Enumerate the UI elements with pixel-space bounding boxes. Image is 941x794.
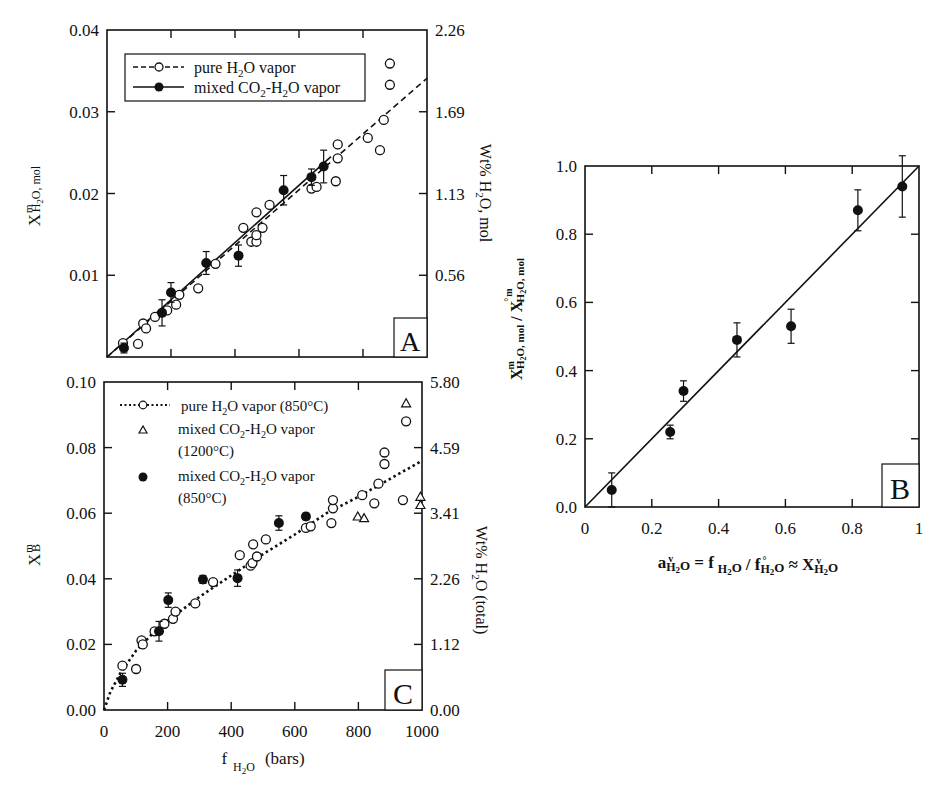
panel-b-ylabel: XmH2O, mol/ X°mH2O, mol <box>503 258 528 380</box>
x-tick-label: 400 <box>218 722 244 741</box>
open-circle-marker-icon <box>385 59 394 68</box>
panel-a: 0.010.560.021.130.031.690.042.26 pure H2… <box>22 21 494 357</box>
filled-circle-marker-icon <box>665 427 675 437</box>
open-circle-marker-icon <box>249 540 258 549</box>
open-circle-marker-icon <box>132 665 141 674</box>
y-tick-label: 0.02 <box>66 635 96 654</box>
filled-circle-marker-icon <box>155 83 164 92</box>
y-right-tick-label: 0.00 <box>430 701 460 720</box>
open-circle-marker-icon <box>333 154 342 163</box>
open-circle-marker-icon <box>138 640 147 649</box>
panel-a-points <box>119 59 395 353</box>
panel-c: 020040060080010000.000.000.021.120.042.2… <box>22 373 490 776</box>
legend-c-mixed-850-temp: (850°C) <box>178 490 227 507</box>
filled-circle-marker-icon <box>306 172 316 182</box>
filled-circle-marker-icon <box>198 574 208 584</box>
panel-a-label: A <box>400 326 421 357</box>
x-tick-label: 0.6 <box>775 519 796 538</box>
open-circle-marker-icon <box>239 223 248 232</box>
filled-circle-marker-icon <box>301 511 311 521</box>
open-circle-marker-icon <box>142 324 151 333</box>
y-tick-label: 0.6 <box>556 293 577 312</box>
open-circle-marker-icon <box>175 290 184 299</box>
y-right-tick-label: 5.80 <box>430 373 460 392</box>
y-right-tick-label: 1.69 <box>435 103 465 122</box>
x-tick-label: 1 <box>915 519 924 538</box>
open-circle-marker-icon <box>380 460 389 469</box>
open-circle-marker-icon <box>235 551 244 560</box>
filled-circle-marker-icon <box>233 573 243 583</box>
y-tick-label: 0.08 <box>66 439 96 458</box>
panel-c-points <box>117 399 424 687</box>
panel-b-fit-lines <box>585 166 919 507</box>
open-circle-marker-icon <box>379 115 388 124</box>
y-right-tick-label: 2.26 <box>430 570 460 589</box>
legend-c-mixed-1200: mixed CO2-H2O vapor <box>178 421 315 440</box>
y-right-tick-label: 2.26 <box>435 21 465 40</box>
figure: 0.010.560.021.130.031.690.042.26 pure H2… <box>0 0 941 794</box>
y-tick-label: 0.04 <box>66 570 96 589</box>
filled-circle-marker-icon <box>279 185 289 195</box>
open-circle-marker-icon <box>261 535 270 544</box>
open-circle-marker-icon <box>358 491 367 500</box>
y-tick-label: 0.10 <box>66 373 96 392</box>
open-circle-marker-icon <box>252 208 261 217</box>
y-right-tick-label: 4.59 <box>430 439 460 458</box>
open-circle-marker-icon <box>328 496 337 505</box>
open-circle-marker-icon <box>331 177 340 186</box>
open-circle-marker-icon <box>172 300 181 309</box>
filled-circle-marker-icon <box>163 595 173 605</box>
filled-circle-marker-icon <box>853 205 863 215</box>
filled-circle-marker-icon <box>117 675 127 685</box>
open-circle-marker-icon <box>211 259 220 268</box>
filled-circle-marker-icon <box>157 308 167 318</box>
open-circle-marker-icon <box>374 479 383 488</box>
filled-circle-marker-icon <box>154 626 164 636</box>
y-right-tick-label: 1.13 <box>435 185 465 204</box>
panel-a-right-ylabel: Wt% H2O, mol <box>474 144 494 243</box>
x-tick-label: 0.8 <box>842 519 863 538</box>
y-tick-label: 1.0 <box>556 157 577 176</box>
panel-c-ylabel: XmB <box>22 544 44 566</box>
open-circle-marker-icon <box>398 496 407 505</box>
panel-c-fit-lines <box>104 461 422 710</box>
y-tick-label: 0.02 <box>69 185 99 204</box>
y-tick-label: 0.00 <box>66 701 96 720</box>
open-circle-marker-icon <box>258 223 267 232</box>
x-tick-label: 0.2 <box>641 519 662 538</box>
y-tick-label: 0.06 <box>66 504 96 523</box>
panel-c-legend: pure H2O vapor (850°C) mixed CO2-H2O vap… <box>120 398 328 507</box>
panel-b: 00.20.40.60.810.00.20.40.60.81.0 B XmH2O… <box>503 156 923 577</box>
open-circle-marker-icon <box>155 63 163 71</box>
x-tick-label: 1000 <box>405 722 439 741</box>
filled-circle-marker-icon <box>732 335 742 345</box>
y-tick-label: 0.04 <box>69 21 99 40</box>
open-circle-marker-icon <box>370 499 379 508</box>
y-tick-label: 0.8 <box>556 225 577 244</box>
open-circle-marker-icon <box>306 522 315 531</box>
open-triangle-marker-icon <box>416 492 425 500</box>
filled-circle-marker-icon <box>166 287 176 297</box>
y-tick-label: 0.03 <box>69 103 99 122</box>
filled-circle-marker-icon <box>234 251 244 261</box>
open-circle-marker-icon <box>312 182 321 191</box>
y-right-tick-label: 3.41 <box>430 504 460 523</box>
fit-line <box>585 166 919 507</box>
panel-c-right-ylabel: Wt% H2O (total) <box>470 526 490 635</box>
open-circle-marker-icon <box>252 552 261 561</box>
open-circle-marker-icon <box>265 200 274 209</box>
open-circle-marker-icon <box>209 578 218 587</box>
y-tick-label: 0.01 <box>69 266 99 285</box>
filled-circle-marker-icon <box>679 386 689 396</box>
open-circle-marker-icon <box>134 339 143 348</box>
panel-a-legend: pure H2O vapor mixed CO2-H2O vapor <box>125 54 365 101</box>
filled-circle-marker-icon <box>119 343 129 353</box>
open-circle-marker-icon <box>327 519 336 528</box>
panel-a-ylabel: XmH2O, mol <box>22 165 45 226</box>
filled-circle-marker-icon <box>319 162 329 172</box>
x-tick-label: 800 <box>346 722 372 741</box>
open-circle-marker-icon <box>375 146 384 155</box>
filled-circle-marker-icon <box>786 321 796 331</box>
open-circle-marker-icon <box>118 661 127 670</box>
open-triangle-marker-icon <box>416 501 425 509</box>
